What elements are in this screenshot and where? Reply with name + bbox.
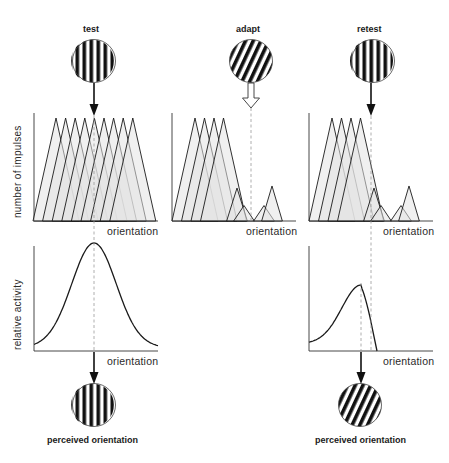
perceived-retest-grating (330, 375, 392, 437)
test-arrow-icon (90, 83, 99, 116)
retest-arrow-icon (367, 83, 376, 116)
perceived-test-label: perceived orientation (47, 435, 138, 445)
adapt-hollow-arrow-icon (243, 83, 260, 108)
retest-impulses-xlabel: orientation (383, 225, 434, 237)
test-activity-xlabel: orientation (107, 355, 158, 367)
retest-title: retest (357, 24, 382, 34)
adapt-impulses-panel (172, 113, 296, 221)
adapt-impulses-xlabel: orientation (246, 225, 297, 237)
perceived-test-arrow-icon (90, 352, 99, 384)
activity-ylabel: relative activity (12, 279, 23, 350)
test-impulses-xlabel: orientation (107, 225, 158, 237)
test-impulses-panel (33, 113, 158, 221)
test-activity-panel (34, 243, 158, 351)
retest-grating (348, 37, 396, 85)
perceived-retest-label: perceived orientation (315, 435, 406, 445)
test-grating (69, 37, 117, 85)
retest-activity-xlabel: orientation (383, 355, 434, 367)
test-title: test (83, 24, 99, 34)
adapt-title: adapt (236, 24, 260, 34)
perceived-retest-arrow-icon (357, 352, 366, 384)
test-impulses-ylabel: number of impulses (12, 125, 23, 218)
tilt-aftereffect-diagram (0, 0, 449, 463)
perceived-test-grating (69, 381, 117, 429)
